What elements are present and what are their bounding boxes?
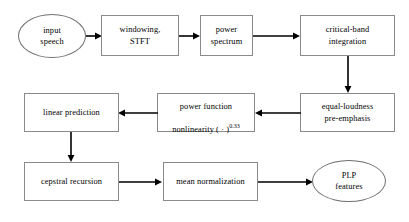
node-linear-prediction-label: linear prediction <box>40 107 103 118</box>
edge-mean-normalization-to-plp-features <box>258 175 314 189</box>
node-plp-features-label: PLP features <box>332 170 365 192</box>
nonlinearity-line2-pre: nonlinearity ( <box>172 125 221 134</box>
edge-power-nonlinearity-to-linear-prediction <box>118 106 158 120</box>
edge-cepstral-recursion-to-mean-normalization <box>119 175 163 189</box>
node-mean-normalization: mean normalization <box>163 162 258 201</box>
nonlinearity-line1: power function <box>180 102 232 111</box>
node-windowing-stft: windowing, STFT <box>101 15 179 56</box>
node-input-speech-label: input speech <box>37 25 66 47</box>
node-input-speech: input speech <box>18 14 86 58</box>
node-windowing-stft-label: windowing, STFT <box>117 24 164 46</box>
node-power-spectrum-label: power spectrum <box>208 24 246 46</box>
flowchart-diagram: input speech windowing, STFT power spect… <box>0 0 409 222</box>
node-plp-features: PLP features <box>312 160 386 202</box>
node-equal-loudness-pre-emphasis-label: equal-loudness pre-emphasis <box>319 101 377 123</box>
node-linear-prediction: linear prediction <box>24 93 119 132</box>
edge-equal-loudness-to-power-nonlinearity <box>255 106 301 120</box>
node-critical-band-integration: critical-band integration <box>300 15 395 56</box>
nonlinearity-exponent: 0.33 <box>229 123 240 129</box>
node-mean-normalization-label: mean normalization <box>173 176 248 187</box>
node-cepstral-recursion-label: cepstral recursion <box>38 176 105 187</box>
node-power-function-nonlinearity-label: power function nonlinearity ( · )0.33 <box>169 90 243 135</box>
node-critical-band-integration-label: critical-band integration <box>323 24 373 46</box>
edge-critical-band-to-equal-loudness <box>341 56 355 94</box>
node-equal-loudness-pre-emphasis: equal-loudness pre-emphasis <box>300 93 395 132</box>
edge-power-spectrum-to-critical-band <box>253 29 301 43</box>
node-power-spectrum: power spectrum <box>200 15 253 56</box>
node-power-function-nonlinearity: power function nonlinearity ( · )0.33 <box>157 93 255 132</box>
edge-linear-prediction-to-cepstral-recursion <box>64 132 78 163</box>
edge-windowing-stft-to-power-spectrum <box>179 29 201 43</box>
node-cepstral-recursion: cepstral recursion <box>24 162 119 201</box>
